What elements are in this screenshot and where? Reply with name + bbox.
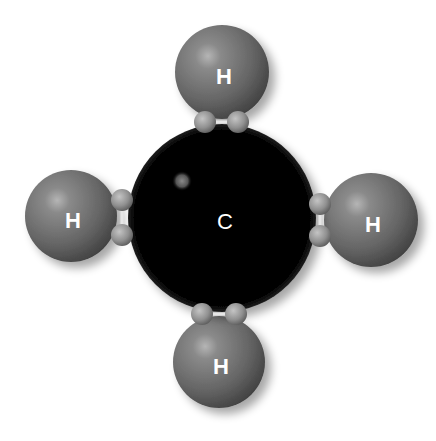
hydrogen-label: H [65, 208, 81, 233]
hydrogen-atom-right: H [324, 173, 418, 267]
electron-sphere [309, 193, 331, 215]
methane-diagram: HHHH C [0, 0, 436, 441]
electron-sphere [111, 189, 133, 211]
electron-sphere [227, 111, 249, 133]
carbon-atom: C [128, 124, 316, 312]
electron-sphere [225, 303, 247, 325]
electron-sphere [191, 303, 213, 325]
electron-sphere [309, 225, 331, 247]
hydrogen-label: H [365, 212, 381, 237]
hydrogen-label: H [213, 354, 229, 379]
electron-sphere [111, 224, 133, 246]
hydrogen-atom-bottom: H [173, 316, 265, 408]
hydrogen-label: H [216, 64, 232, 89]
carbon-label: C [217, 209, 233, 234]
hydrogen-atom-top: H [175, 25, 269, 119]
carbon-specular-highlight [172, 171, 192, 191]
hydrogen-atom-left: H [25, 170, 117, 262]
electron-sphere [194, 111, 216, 133]
